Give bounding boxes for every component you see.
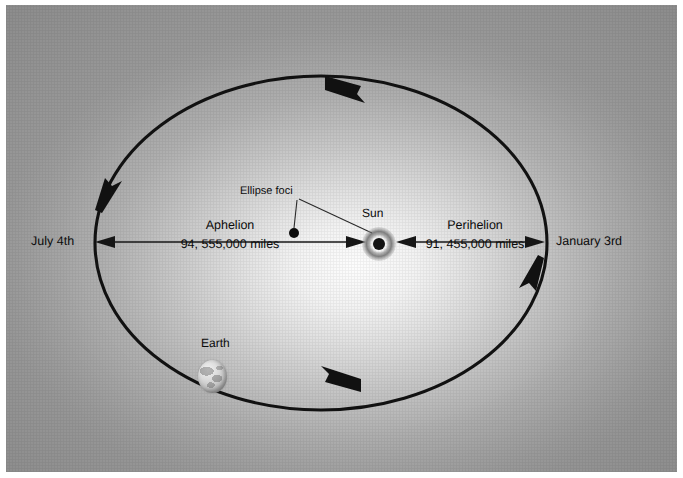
orbit-arrow-left-icon [95,178,122,213]
label-january-3rd: January 3rd [556,235,622,249]
aphelion-value: 94, 555,000 miles [126,238,334,252]
label-ellipse-foci: Ellipse foci [240,186,293,198]
orbit-arrow-top-icon [325,76,365,103]
orbit-diagram-figure: July 4th January 3rd Aphelion 94, 555,00… [0,0,683,478]
earth-icon [198,360,227,393]
aphelion-measurement: Aphelion 94, 555,000 miles [126,219,334,251]
aphelion-arrow-left-icon [95,236,115,248]
orbit-arrow-bottom-icon [321,366,361,392]
label-earth: Earth [201,337,230,350]
perihelion-name: Perihelion [411,219,539,233]
label-sun: Sun [362,207,383,220]
sun-icon [362,227,396,261]
earth-surface-texture [198,360,227,393]
perihelion-value: 91, 455,000 miles [411,238,539,252]
perihelion-measurement: Perihelion 91, 455,000 miles [411,219,539,251]
label-july-4th: July 4th [31,235,74,249]
sun-core [373,238,385,250]
aphelion-name: Aphelion [126,219,334,233]
